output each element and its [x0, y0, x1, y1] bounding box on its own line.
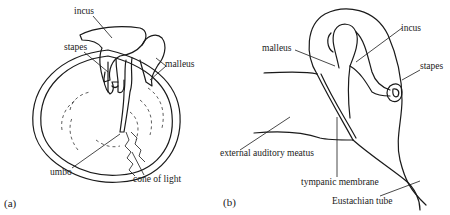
incus-b-shape [356, 32, 390, 90]
malleus-handle-shape [120, 58, 132, 132]
label-b-external-auditory-meatus: external auditory meatus [220, 149, 314, 159]
tympanic-membrane-line1 [317, 74, 353, 140]
label-b-incus: incus [401, 24, 421, 34]
tympanic-ring-inner [41, 56, 173, 175]
ear-anatomy-figure: incus stapes malleus umbo cone of light … [0, 0, 450, 215]
canal-lower-wall [254, 132, 353, 140]
incus-shape [80, 27, 146, 82]
malleus-b-shape [333, 24, 357, 118]
label-b-stapes: stapes [420, 62, 443, 72]
stapes-b-shape [387, 84, 402, 102]
label-b-tympanic-membrane: tympanic membrane [301, 178, 379, 188]
label-a-cone-of-light: cone of light [133, 175, 181, 185]
label-b-malleus: malleus [262, 44, 292, 54]
panel-b-label: (b) [223, 197, 236, 208]
canal-upper-wall [264, 72, 317, 74]
malleus-head-shape [140, 35, 165, 86]
middle-ear-outline [309, 9, 426, 205]
label-b-eustachian-tube: Eustachian tube [332, 197, 392, 207]
panel-a-drawing [0, 0, 225, 215]
label-a-stapes: stapes [64, 43, 87, 53]
tympanic-ring-outer [33, 50, 180, 182]
label-a-incus: incus [74, 7, 94, 17]
label-a-umbo: umbo [50, 168, 72, 178]
label-a-malleus: malleus [165, 60, 195, 70]
panel-a-label: (a) [4, 198, 16, 209]
tympanic-membrane-line2 [321, 74, 356, 138]
stapes-shape [104, 72, 124, 94]
